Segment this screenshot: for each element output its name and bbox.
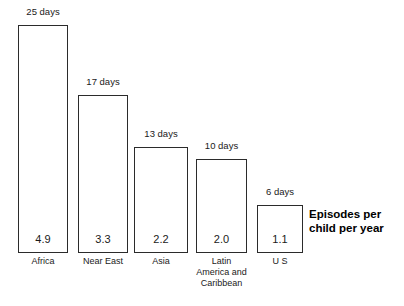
category-label: U S [240,256,320,267]
bar-top-label: 25 days [18,6,68,17]
chart-annotation-line: Episodes per [309,207,403,221]
category-label-line: America and [181,267,262,278]
bar-top-label: 10 days [196,140,247,151]
bar-value-label: 2.2 [134,233,188,245]
bar-value-label: 4.9 [18,233,68,245]
chart-annotation: Episodes per child per year [309,207,403,235]
bar-rect [18,25,68,253]
bar-top-label: 17 days [78,76,128,87]
bar-rect [257,205,303,253]
bar-top-label: 13 days [134,128,188,139]
bar-value-label: 1.1 [257,233,303,245]
bar-rect [78,95,128,253]
bar-top-label: 6 days [257,186,303,197]
category-label-line: Caribbean [181,278,262,289]
bar-value-label: 2.0 [196,233,247,245]
chart-annotation-line: child per year [309,221,403,235]
bar-chart: 25 days 4.9 Africa 17 days 3.3 Near East… [0,0,404,306]
bar-value-label: 3.3 [78,233,128,245]
category-label-line: U S [240,256,320,267]
